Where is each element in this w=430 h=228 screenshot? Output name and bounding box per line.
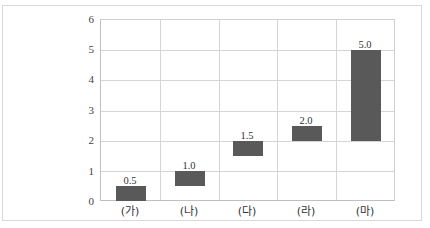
y-tick-label-4: 4 (78, 74, 94, 85)
y-tick-label-6: 6 (78, 14, 94, 25)
category-label-ma: (마) (335, 206, 395, 217)
y-tick-label-1: 1 (78, 166, 94, 177)
y-tick-label-2: 2 (78, 135, 94, 146)
data-label-ma: 5.0 (335, 40, 395, 51)
y-tick-label-3: 3 (78, 105, 94, 116)
y-tick-label-5: 5 (78, 44, 94, 55)
category-label-da: (다) (217, 206, 277, 217)
category-label-ra: (라) (276, 206, 336, 217)
data-label-ga: 0.5 (100, 176, 160, 187)
category-label-ga: (가) (100, 206, 160, 217)
y-tick-label-0: 0 (78, 196, 94, 207)
bar-da[interactable] (233, 141, 263, 156)
bar-ga[interactable] (116, 186, 146, 201)
data-label-da: 1.5 (217, 131, 277, 142)
bar-ma[interactable] (351, 50, 381, 141)
bar-ra[interactable] (292, 126, 322, 141)
data-label-na: 1.0 (159, 161, 219, 172)
bar-chart-figure: 6 5 4 3 2 1 0 0.5 1.0 1.5 2.0 5.0 (0, 0, 430, 228)
gridline-vertical-3 (277, 20, 278, 200)
gridline-vertical-1 (160, 20, 161, 200)
gridline-vertical-2 (219, 20, 220, 200)
data-label-ra: 2.0 (276, 116, 336, 127)
category-label-na: (나) (159, 206, 219, 217)
gridline-horizontal-1 (101, 171, 394, 172)
bar-na[interactable] (175, 171, 205, 186)
